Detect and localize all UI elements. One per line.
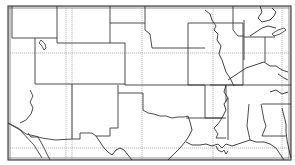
central-boundaries xyxy=(145,6,291,102)
map-svg xyxy=(0,0,295,165)
state-boundaries xyxy=(12,6,205,139)
graticule xyxy=(8,6,291,160)
map-frame xyxy=(8,6,291,160)
lake-erie xyxy=(272,28,286,36)
southwest-boundaries xyxy=(8,90,72,160)
map-canvas xyxy=(0,0,295,165)
great-salt-lake xyxy=(39,40,46,50)
southern-boundaries xyxy=(186,85,291,160)
